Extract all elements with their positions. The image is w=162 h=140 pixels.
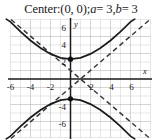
xtick-pos4: 4: [109, 82, 114, 92]
hyperbola-figure: Center: (0, 0); a = 3, b = 3: [0, 0, 162, 140]
hyperbola-plot: -6 -4 -2 2 4 6 6 4 2 -4 -6 x y: [0, 17, 162, 140]
ytick-pos2: 2: [62, 57, 67, 67]
caption-prefix: Center:: [24, 3, 60, 16]
caption-a-value: = 3,: [96, 3, 115, 16]
vertex-upper: [68, 57, 73, 62]
ytick-pos4: 4: [62, 40, 67, 50]
y-axis-label: y: [73, 19, 78, 29]
caption-b-value: = 3: [122, 3, 138, 16]
x-axis-label: x: [142, 66, 147, 76]
vertex-lower: [68, 96, 73, 101]
ytick-neg6: -6: [59, 119, 67, 129]
ytick-neg4: -4: [59, 102, 67, 112]
caption-center-point: (0, 0);: [60, 3, 90, 16]
xtick-pos2: 2: [89, 82, 94, 92]
xtick-neg4: -4: [27, 82, 35, 92]
figure-caption: Center: (0, 0); a = 3, b = 3: [0, 0, 162, 18]
plot-area: -6 -4 -2 2 4 6 6 4 2 -4 -6 x y: [0, 17, 162, 140]
xtick-pos6: 6: [129, 82, 134, 92]
xtick-neg2: -2: [47, 82, 55, 92]
xtick-neg6: -6: [7, 82, 15, 92]
ytick-pos6: 6: [62, 23, 67, 33]
axis-name-labels: x y: [73, 19, 147, 76]
